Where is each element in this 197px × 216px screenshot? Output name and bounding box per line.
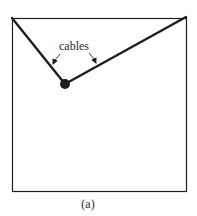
enclosure-box <box>13 19 187 192</box>
arrow-to-right-cable <box>89 53 96 63</box>
cable-diagram: cables (a) <box>0 0 197 216</box>
left-cable <box>12 18 65 84</box>
figure-caption: (a) <box>81 197 94 211</box>
arrow-to-left-cable <box>53 54 60 64</box>
hanging-mass <box>60 79 70 89</box>
cables-label: cables <box>59 39 89 53</box>
